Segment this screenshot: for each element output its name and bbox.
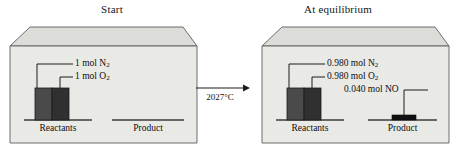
start-bar-n2 xyxy=(35,88,52,120)
equilibrium-bar-no xyxy=(392,115,416,120)
start-bar-o2 xyxy=(52,88,69,120)
panel-title-start: Start xyxy=(52,3,172,15)
start-box-top-face xyxy=(10,27,197,46)
equilibrium-bar-o2 xyxy=(304,88,321,120)
start-label-o2: 1 mol O2 xyxy=(75,72,110,82)
start-label-n2: 1 mol N2 xyxy=(75,59,110,69)
equilibrium-label-o2-sub: 2 xyxy=(375,74,379,82)
equilibrium-label-n2: 0.980 mol N2 xyxy=(327,59,378,69)
start-reactants-label: Reactants xyxy=(24,123,92,133)
panel-title-equilibrium: At equilibrium xyxy=(268,3,408,15)
arrow-head-icon xyxy=(243,85,250,92)
start-label-n2-text: 1 mol N xyxy=(75,58,106,68)
equilibrium-product-label: Product xyxy=(368,123,437,133)
reaction-condition-label: 2027°C xyxy=(190,92,250,102)
equilibrium-label-no: 0.040 mol NO xyxy=(344,85,399,95)
equilibrium-label-o2: 0.980 mol O2 xyxy=(327,72,378,82)
start-label-o2-text: 1 mol O xyxy=(75,71,106,81)
reaction-arrow xyxy=(196,85,250,92)
start-product-label: Product xyxy=(112,123,184,133)
equilibrium-box-top-face xyxy=(262,27,449,46)
equilibrium-label-n2-text: 0.980 mol N xyxy=(327,58,375,68)
start-label-n2-sub: 2 xyxy=(106,61,110,69)
equilibrium-label-o2-text: 0.980 mol O xyxy=(327,71,375,81)
equilibrium-reactants-label: Reactants xyxy=(276,123,344,133)
start-label-o2-sub: 2 xyxy=(106,74,110,82)
equilibrium-label-n2-sub: 2 xyxy=(375,61,379,69)
equilibrium-bar-n2 xyxy=(287,88,304,120)
equilibrium-diagram: Start At equilibrium 1 mol N2 1 mol O2 R… xyxy=(0,0,452,148)
equilibrium-label-no-text: 0.040 mol NO xyxy=(344,84,399,94)
